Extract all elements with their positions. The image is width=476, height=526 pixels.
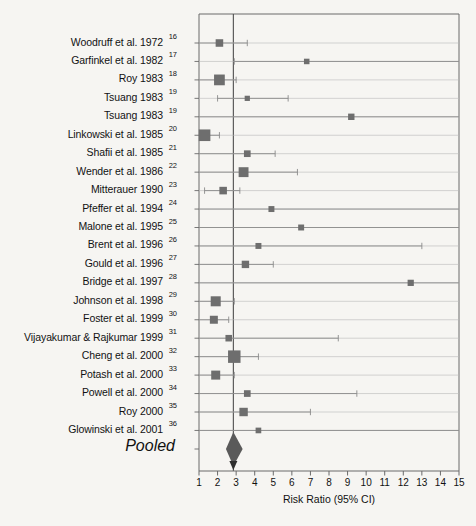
study-label: Cheng et al. 2000 [82, 349, 163, 361]
study-row [199, 39, 247, 47]
x-axis-tick-label: 13 [412, 477, 432, 488]
study-label: Glowinski et al. 2001 [68, 423, 163, 435]
study-label: Gould et al. 1996 [85, 257, 163, 269]
study-label: Wender et al. 1986 [76, 165, 163, 177]
study-reference-number: 22 [169, 161, 177, 170]
x-axis-tick-label: 4 [245, 477, 265, 488]
x-axis-tick-label: 11 [375, 477, 395, 488]
x-axis-tick-label: 7 [300, 477, 320, 488]
x-axis-title: Risk Ratio (95% CI) [91, 493, 476, 505]
study-label: Roy 2000 [119, 405, 163, 417]
study-reference-number: 20 [169, 124, 177, 133]
study-label: Foster et al. 1999 [83, 312, 163, 324]
study-row [199, 371, 234, 380]
effect-estimate-marker [298, 225, 304, 231]
study-reference-number: 26 [169, 235, 177, 244]
study-row [199, 390, 357, 397]
effect-estimate-marker [244, 390, 251, 397]
study-row [199, 167, 297, 177]
study-row [199, 243, 422, 249]
study-label: Bridge et al. 1997 [82, 275, 163, 287]
study-row [199, 296, 234, 306]
study-row [199, 114, 459, 120]
study-reference-number: 36 [169, 419, 177, 428]
pooled-label: Pooled [125, 437, 175, 455]
row-tick-stubs [195, 43, 200, 449]
study-label: Linkowski et al. 1985 [68, 128, 163, 140]
study-reference-number: 24 [169, 198, 177, 207]
study-reference-number: 25 [169, 217, 177, 226]
study-label: Tsuang 1983 [104, 109, 163, 121]
x-axis-tick-label: 5 [263, 477, 283, 488]
study-row [199, 225, 459, 231]
study-row [199, 428, 459, 434]
study-reference-number: 32 [169, 346, 177, 355]
plot-frame [199, 14, 459, 471]
study-reference-number: 30 [169, 309, 177, 318]
study-label: Potash et al. 2000 [80, 368, 163, 380]
effect-estimate-marker [216, 39, 224, 47]
effect-estimate-marker [225, 335, 232, 342]
study-reference-number: 28 [169, 272, 177, 281]
row-gridlines [199, 43, 459, 430]
study-row [199, 316, 229, 324]
study-row [199, 129, 220, 141]
study-row [199, 150, 275, 157]
study-label: Woodruff et al. 1972 [71, 36, 163, 48]
x-axis-tick-label: 9 [338, 477, 358, 488]
study-row [199, 206, 459, 212]
effect-estimate-marker [268, 206, 274, 212]
study-reference-number: 19 [169, 87, 177, 96]
study-reference-number: 16 [169, 32, 177, 41]
effect-estimate-marker [408, 280, 414, 286]
study-label: Mitterauer 1990 [91, 183, 163, 195]
study-label: Roy 1983 [119, 72, 163, 84]
effect-estimate-marker [211, 296, 221, 306]
effect-estimate-marker [199, 129, 211, 141]
x-axis-tick-label: 10 [356, 477, 376, 488]
x-axis-tick-label: 3 [226, 477, 246, 488]
effect-estimate-marker [239, 408, 247, 416]
study-row [199, 350, 258, 362]
study-reference-number: 31 [169, 327, 177, 336]
study-label: Pfeffer et al. 1994 [82, 202, 163, 214]
study-row [199, 261, 273, 268]
x-axis-tick-label: 15 [449, 477, 469, 488]
x-axis-tick-label: 2 [208, 477, 228, 488]
effect-estimate-marker [242, 261, 249, 268]
study-label: Powell et al. 2000 [82, 386, 163, 398]
study-label: Brent et al. 1996 [88, 238, 163, 250]
study-label: Shafii et al. 1985 [87, 146, 163, 158]
study-reference-number: 34 [169, 383, 177, 392]
study-reference-number: 29 [169, 290, 177, 299]
study-row [199, 335, 338, 342]
effect-estimate-marker [348, 114, 354, 120]
x-axis-tick-label: 12 [393, 477, 413, 488]
study-reference-number: 27 [169, 253, 177, 262]
pooled-diamond [226, 432, 243, 466]
study-reference-number: 21 [169, 143, 177, 152]
study-row [218, 95, 289, 101]
x-axis-tick-label: 6 [282, 477, 302, 488]
forest-plot [0, 0, 476, 526]
study-label: Johnson et al. 1998 [73, 294, 163, 306]
study-label: Tsuang 1983 [104, 91, 163, 103]
effect-estimate-marker [219, 187, 227, 195]
study-row [199, 280, 459, 286]
effect-estimate-marker [239, 167, 249, 177]
study-reference-number: 23 [169, 180, 177, 189]
study-row [205, 187, 240, 195]
study-row [199, 408, 310, 416]
effect-estimate-marker [211, 371, 220, 380]
pooled-axis-arrow [229, 461, 237, 470]
effect-estimate-marker [210, 316, 218, 324]
study-row [199, 75, 236, 86]
study-reference-number: 17 [169, 50, 177, 59]
x-axis-tick-label: 14 [430, 477, 450, 488]
effect-estimate-marker [214, 75, 225, 86]
effect-estimate-marker [244, 150, 251, 157]
study-label: Vijayakumar & Rajkumar 1999 [24, 331, 163, 343]
effect-estimate-marker [228, 350, 240, 362]
effect-estimate-marker [245, 96, 250, 101]
study-reference-number: 35 [169, 401, 177, 410]
